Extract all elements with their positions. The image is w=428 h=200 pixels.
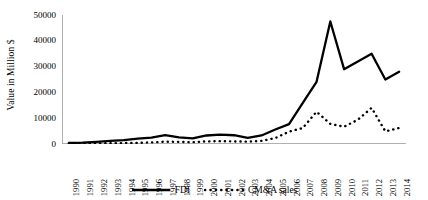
y-axis-title-text: Value in Million $ [6,39,16,110]
legend-item-fdi: FDI [131,185,190,195]
plot-area [62,15,406,144]
legend-swatch-dotted-icon [204,185,244,195]
legend-swatch-solid-icon [131,185,171,195]
y-axis-tick-label: 50000 [34,11,57,20]
chart-legend: FDI CM&A sales [0,182,428,198]
data-series-layer [69,21,399,143]
plot-svg [62,15,406,144]
y-axis-tick-labels: 01000020000300004000050000 [20,0,58,160]
legend-label-fdi: FDI [175,185,190,195]
y-axis-title: Value in Million $ [0,0,22,150]
legend-item-cma-sales: CM&A sales [204,185,297,195]
y-axis-tick-label: 40000 [34,36,57,45]
series-line-cm-a-sales [69,108,399,144]
legend-label-cma-sales: CM&A sales [248,185,297,195]
y-axis-tick-label: 20000 [34,88,57,97]
y-axis-tick-label: 10000 [34,114,57,123]
chart-figure: Value in Million $ 010000200003000040000… [0,0,428,200]
y-axis-tick-label: 0 [52,140,57,149]
axis-lines [62,15,406,144]
y-axis-tick-label: 30000 [34,62,57,71]
x-axis-tick-labels: 1990199119921993199419951996199719981999… [62,146,406,180]
